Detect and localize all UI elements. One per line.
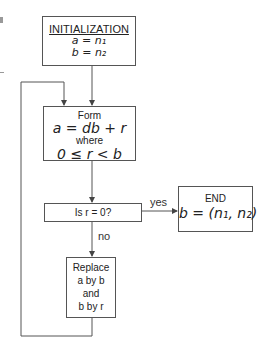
init-line-b: b = n₂ (43, 47, 135, 59)
end-box: END b = (n₁, n₂) (178, 186, 253, 232)
replace-line2: a by b (67, 274, 115, 287)
replace-line3: and (67, 287, 115, 300)
init-box: INITIALIZATION a = n₁ b = n₂ (42, 16, 136, 66)
decision-box: Is r = 0? (44, 203, 142, 222)
end-heading: END (179, 193, 252, 204)
yes-label: yes (150, 196, 167, 208)
replace-box: Replace a by b and b by r (66, 257, 116, 318)
end-result: b = (n₁, n₂) (179, 204, 252, 222)
replace-line1: Replace (67, 261, 115, 274)
no-label: no (98, 230, 110, 242)
form-box: Form a = db + r where 0 ≤ r < b (43, 106, 136, 161)
decision-text: Is r = 0? (45, 204, 141, 221)
form-constraint: 0 ≤ r < b (44, 146, 135, 162)
form-where: where (44, 136, 135, 146)
form-equation: a = db + r (44, 121, 135, 136)
replace-line4: b by r (67, 300, 115, 313)
